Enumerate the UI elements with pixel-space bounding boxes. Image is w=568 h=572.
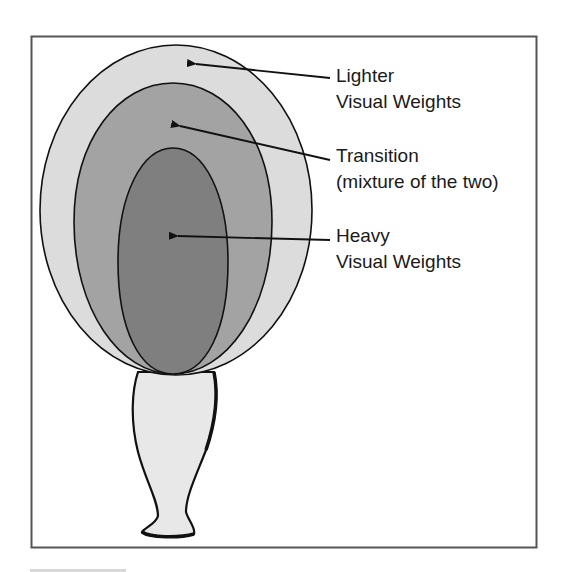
inner-ellipse-heavy [118,148,228,374]
visual-weight-diagram: Lighter Visual Weights Transition (mixtu… [0,0,568,572]
label-lighter-line2: Visual Weights [336,91,461,112]
label-lighter-line1: Lighter [336,65,395,86]
label-heavy-line2: Visual Weights [336,251,461,272]
label-transition-line2: (mixture of the two) [336,171,499,192]
label-transition-line1: Transition [336,145,419,166]
label-heavy-line1: Heavy [336,225,390,246]
